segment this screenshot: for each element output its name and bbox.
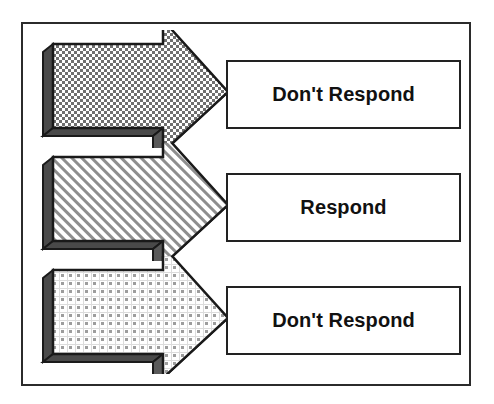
outcome-box: Don't Respond [226,60,461,129]
flow-row: Respond [23,143,469,261]
outcome-box: Don't Respond [226,286,461,355]
flow-row: Don't Respond [23,30,469,148]
arrow-right-icon [35,143,243,261]
arrow-right-icon [35,256,243,374]
outcome-label: Don't Respond [272,83,415,106]
flow-row: Don't Respond [23,256,469,374]
diagram-frame: Don't Respond [21,22,471,386]
outcome-box: Respond [226,173,461,242]
arrow-right-icon [35,30,243,148]
diagram-canvas: Don't Respond [0,0,494,404]
outcome-label: Respond [300,196,386,219]
outcome-label: Don't Respond [272,309,415,332]
